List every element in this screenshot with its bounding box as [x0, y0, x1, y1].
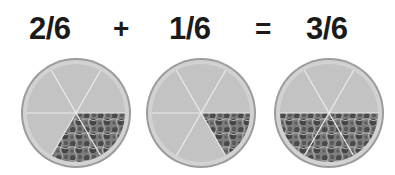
- pizza-three-sixths: [274, 58, 384, 168]
- pizza-diagram: [0, 0, 395, 175]
- pizza-two-sixths: [21, 58, 131, 168]
- pizza-one-sixth: [146, 58, 256, 168]
